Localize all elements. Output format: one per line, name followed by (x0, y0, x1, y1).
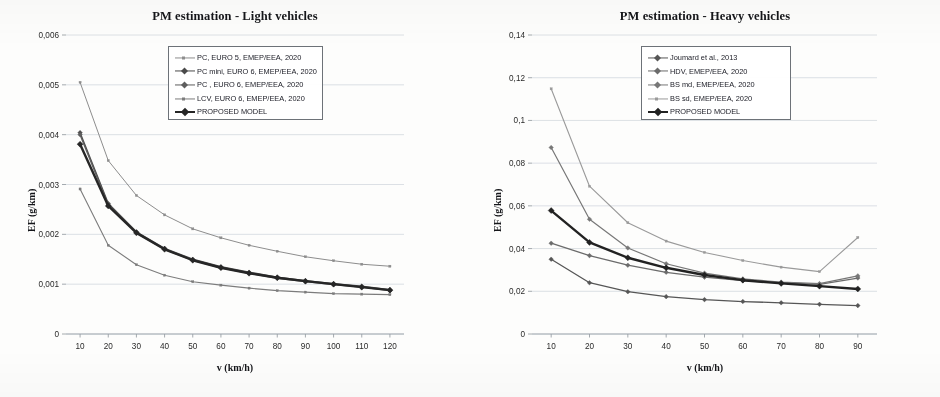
chart-title-light: PM estimation - Light vehicles (0, 9, 470, 24)
data-point-marker (779, 301, 784, 306)
data-point-marker (135, 264, 137, 266)
y-tick-label: 0,12 (509, 74, 525, 83)
legend-label: PC , EURO 6, EMEP/EEA, 2020 (197, 81, 303, 88)
y-tick-label: 0,06 (509, 202, 525, 211)
data-point-marker (302, 278, 308, 284)
data-point-marker (742, 259, 744, 261)
legend-item: PC mini, EURO 6, EMEP/EEA, 2020 (175, 65, 317, 79)
data-point-marker (626, 263, 631, 268)
y-tick-label: 0 (520, 330, 525, 339)
data-point-marker (304, 256, 306, 258)
y-tick-label: 0,001 (39, 280, 60, 289)
data-point-marker (703, 251, 705, 253)
y-axis-label-heavy: EF (g/km) (492, 189, 503, 232)
data-point-marker (626, 289, 631, 294)
data-point-marker (549, 145, 554, 150)
x-tick-label: 40 (160, 342, 170, 351)
x-tick-label: 10 (76, 342, 86, 351)
x-tick-label: 10 (547, 342, 557, 351)
x-tick-label: 70 (245, 342, 255, 351)
data-point-marker (304, 291, 306, 293)
legend-item: PC, EURO 5, EMEP/EEA, 2020 (175, 51, 317, 65)
x-tick-label: 80 (273, 342, 283, 351)
data-point-marker (332, 293, 334, 295)
x-tick-label: 60 (738, 342, 748, 351)
x-tick-label: 70 (777, 342, 787, 351)
legend-label: HDV, EMEP/EEA, 2020 (670, 68, 747, 75)
x-axis-label-heavy: v (km/h) (470, 362, 940, 373)
data-point-marker (361, 263, 363, 265)
data-point-marker (856, 303, 861, 308)
legend-key-icon (648, 80, 668, 90)
x-tick-label: 110 (355, 342, 368, 351)
data-point-marker (359, 284, 365, 290)
x-tick-label: 90 (301, 342, 311, 351)
data-point-marker (274, 275, 280, 281)
legend-label: BS sd, EMEP/EEA, 2020 (670, 95, 752, 102)
x-tick-label: 50 (188, 342, 198, 351)
data-point-marker (192, 281, 194, 283)
legend-item: HDV, EMEP/EEA, 2020 (648, 65, 785, 79)
legend-label: Joumard et al., 2013 (670, 54, 737, 61)
data-point-marker (276, 250, 278, 252)
data-point-marker (665, 240, 667, 242)
figure-canvas: PM estimation - Light vehicles EF (g/km)… (0, 0, 940, 397)
legend-label: PROPOSED MODEL (197, 108, 267, 115)
data-point-marker (664, 294, 669, 299)
legend-item: BS sd, EMEP/EEA, 2020 (648, 92, 785, 106)
y-axis-label-light: EF (g/km) (26, 189, 37, 232)
data-point-marker (220, 237, 222, 239)
legend-key-icon (648, 94, 668, 104)
legend-key-icon (648, 53, 668, 63)
chart-panel-light: PM estimation - Light vehicles EF (g/km)… (0, 0, 470, 397)
data-point-marker (549, 241, 554, 246)
data-point-marker (163, 214, 165, 216)
legend-key-icon (648, 66, 668, 76)
x-tick-label: 60 (216, 342, 226, 351)
legend-key-icon (175, 94, 195, 104)
x-tick-label: 40 (662, 342, 672, 351)
data-point-marker (331, 281, 337, 287)
data-point-marker (389, 265, 391, 267)
legend-key-icon (648, 107, 668, 117)
y-tick-label: 0,08 (509, 159, 525, 168)
data-point-marker (702, 297, 707, 302)
y-tick-label: 0,006 (39, 31, 60, 40)
data-point-marker (389, 294, 391, 296)
x-axis-label-light: v (km/h) (0, 362, 470, 373)
data-point-marker (387, 287, 393, 293)
y-tick-label: 0,14 (509, 31, 525, 40)
x-tick-label: 30 (132, 342, 142, 351)
data-point-marker (276, 290, 278, 292)
legend-label: PC, EURO 5, EMEP/EEA, 2020 (197, 54, 301, 61)
data-point-marker (588, 185, 590, 187)
legend-key-icon (175, 80, 195, 90)
chart-title-heavy: PM estimation - Heavy vehicles (470, 9, 940, 24)
series-line (551, 148, 858, 284)
x-tick-label: 120 (383, 342, 397, 351)
legend-item: BS md, EMEP/EEA, 2020 (648, 78, 785, 92)
legend-key-icon (175, 53, 195, 63)
data-point-marker (192, 228, 194, 230)
data-point-marker (780, 266, 782, 268)
y-tick-label: 0,002 (39, 230, 60, 239)
data-point-marker (550, 88, 552, 90)
legend-item: Joumard et al., 2013 (648, 51, 785, 65)
y-tick-label: 0,005 (39, 81, 60, 90)
data-point-marker (741, 299, 746, 304)
y-tick-label: 0,003 (39, 181, 60, 190)
data-point-marker (857, 236, 859, 238)
legend-label: LCV, EURO 6, EMEP/EEA, 2020 (197, 95, 305, 102)
data-point-marker (627, 222, 629, 224)
legend-item: PC , EURO 6, EMEP/EEA, 2020 (175, 78, 317, 92)
series-line (80, 144, 390, 290)
data-point-marker (163, 274, 165, 276)
legend-item: LCV, EURO 6, EMEP/EEA, 2020 (175, 92, 317, 106)
legend-label: PROPOSED MODEL (670, 108, 740, 115)
data-point-marker (361, 293, 363, 295)
data-point-marker (79, 81, 81, 83)
legend-key-icon (175, 66, 195, 76)
y-tick-label: 0 (54, 330, 59, 339)
data-point-marker (107, 159, 109, 161)
data-point-marker (778, 280, 784, 286)
